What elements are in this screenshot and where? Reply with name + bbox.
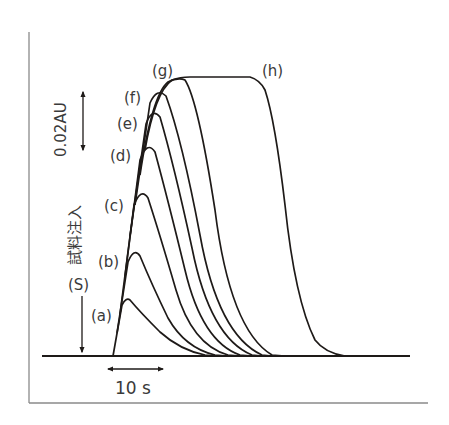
fia-peak-chart: (a) (b) (c) (d) (e) (f) (g) (h) 0.02AU 試… — [0, 0, 449, 425]
time-scale-label: 10 s — [115, 378, 151, 398]
label-a: (a) — [91, 307, 112, 325]
label-f: (f) — [124, 89, 141, 107]
peak-curves — [113, 77, 345, 356]
chart-frame — [29, 32, 428, 403]
absorbance-scale: 0.02AU — [52, 92, 83, 157]
curve-h — [145, 77, 345, 356]
label-d: (d) — [110, 147, 131, 165]
label-h: (h) — [262, 62, 283, 80]
absorbance-scale-label: 0.02AU — [52, 102, 70, 157]
label-c: (c) — [104, 197, 124, 215]
label-e: (e) — [117, 115, 138, 133]
injection-label: 試料注入 — [66, 205, 84, 265]
label-b: (b) — [98, 253, 119, 271]
curve-labels: (a) (b) (c) (d) (e) (f) (g) (h) — [91, 62, 283, 325]
curve-c — [120, 194, 240, 356]
time-scale: 10 s — [108, 369, 163, 398]
label-s: (S) — [68, 276, 89, 294]
label-g: (g) — [152, 62, 173, 80]
injection-marker: (S) — [68, 276, 89, 352]
